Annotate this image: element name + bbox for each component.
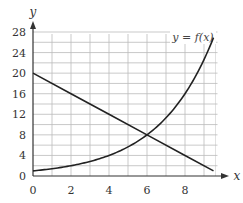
y-tick-label: 28: [12, 26, 26, 39]
y-tick-label: 24: [12, 47, 26, 60]
y-tick-label: 0: [19, 170, 26, 183]
y-tick-label: 20: [12, 67, 26, 80]
x-axis-label: x: [234, 169, 241, 183]
chart: 024680481216202428 x y y = f(x): [0, 0, 243, 203]
tick-labels: 024680481216202428: [12, 26, 189, 197]
x-tick-label: 8: [182, 184, 189, 197]
x-tick-label: 6: [144, 184, 151, 197]
grid-lines: [33, 32, 218, 176]
y-tick-label: 12: [12, 108, 26, 121]
y-tick-label: 4: [19, 149, 26, 162]
line-series: [33, 73, 214, 171]
y-axis-label: y: [29, 5, 37, 19]
y-axis-arrow-icon: [30, 21, 36, 29]
x-tick-label: 4: [106, 184, 113, 197]
x-tick-label: 0: [30, 184, 37, 197]
y-tick-label: 8: [19, 129, 26, 142]
x-axis-arrow-icon: [221, 173, 229, 179]
x-tick-label: 2: [68, 184, 75, 197]
y-tick-label: 16: [12, 88, 26, 101]
curve-label: y = f(x): [171, 31, 213, 44]
